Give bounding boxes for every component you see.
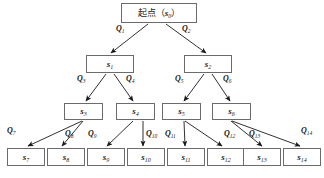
node-s0[interactable]: 起点（s0） (121, 3, 197, 23)
node-s9[interactable]: s9 (87, 148, 125, 166)
edge-s4-to-s9 (107, 121, 133, 146)
node-s13-label: s13 (257, 153, 267, 162)
node-s14[interactable]: s14 (283, 148, 321, 166)
node-s3-label: s3 (80, 107, 87, 116)
node-s7-label: s7 (23, 153, 30, 162)
node-s3[interactable]: s3 (64, 103, 103, 120)
edge-label-q14: Q14 (301, 127, 312, 135)
node-s5-label: s5 (178, 107, 185, 116)
node-s7[interactable]: s7 (7, 148, 45, 166)
node-s5[interactable]: s5 (162, 103, 201, 120)
edge-label-q5: Q5 (175, 75, 184, 83)
node-s4-label: s4 (132, 107, 139, 116)
edge-label-q2: Q2 (182, 25, 191, 33)
node-s8-label: s8 (63, 153, 70, 162)
edge-label-q8: Q8 (65, 130, 74, 138)
node-s12-label: s12 (221, 153, 231, 162)
edge-s1-to-s3 (86, 74, 106, 101)
edge-label-q9: Q9 (88, 130, 97, 138)
edge-s5-to-s12 (185, 121, 222, 146)
edge-s2-to-s5 (184, 74, 204, 101)
node-s2-label: s2 (205, 60, 212, 69)
edge-label-q10: Q10 (146, 130, 157, 138)
edge-label-q6: Q6 (223, 75, 232, 83)
node-s4[interactable]: s4 (116, 103, 155, 120)
node-s10-label: s10 (141, 153, 151, 162)
edge-label-q11: Q11 (165, 130, 176, 138)
node-s9-label: s9 (103, 153, 110, 162)
node-s11[interactable]: s11 (167, 148, 205, 166)
edge-lines (28, 24, 300, 146)
edge-label-q4: Q4 (126, 75, 135, 83)
edge-label-q13: Q13 (249, 130, 260, 138)
tree-diagram: 起点（s0）s1s2s3s4s5s6s7s8s9s10s11s12s13s14 … (0, 0, 324, 178)
node-s10[interactable]: s10 (127, 148, 165, 166)
edge-s6-to-s14 (232, 121, 300, 146)
node-s1[interactable]: s1 (86, 55, 134, 73)
node-s13[interactable]: s13 (243, 148, 281, 166)
edge-label-q12: Q12 (224, 130, 235, 138)
node-s12[interactable]: s12 (207, 148, 245, 166)
edge-label-q3: Q3 (77, 75, 86, 83)
edge-label-q1: Q1 (116, 25, 125, 33)
node-s11-label: s11 (181, 153, 190, 162)
node-s8[interactable]: s8 (47, 148, 85, 166)
node-s2[interactable]: s2 (184, 55, 232, 73)
node-s14-label: s14 (297, 153, 307, 162)
node-s6[interactable]: s6 (212, 103, 251, 120)
node-s0-label: 起点（s0） (138, 9, 181, 18)
node-s6-label: s6 (228, 107, 235, 116)
node-s1-label: s1 (107, 60, 114, 69)
edge-s5-to-s11 (184, 121, 185, 146)
edge-label-q7: Q7 (7, 127, 16, 135)
